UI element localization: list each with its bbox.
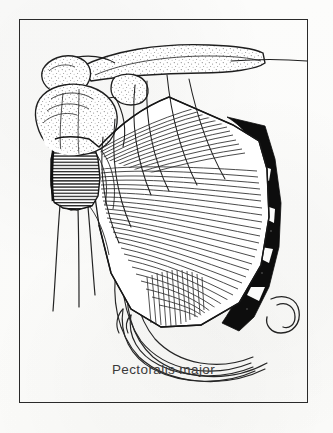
xiphoid-hook: [267, 297, 300, 333]
figure-page: Pectoralis major: [0, 0, 333, 433]
clavicle: [81, 45, 265, 81]
humeral-head: [36, 84, 118, 155]
humerus-shaft: [53, 205, 95, 311]
figure-caption: Pectoralis major: [19, 362, 308, 377]
pectoralis-major-illustration: [19, 19, 308, 403]
